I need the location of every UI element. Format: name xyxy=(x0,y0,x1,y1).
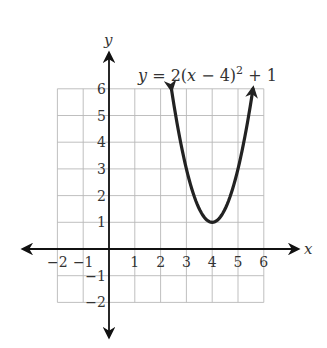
y-tick-label: 3 xyxy=(97,161,106,177)
equation-label: y = 2(x − 4)2 + 1 xyxy=(137,64,277,85)
x-tick-label: 4 xyxy=(208,254,217,270)
y-axis-label: y xyxy=(103,31,113,49)
y-tick-label: 5 xyxy=(97,108,106,124)
y-tick-label: 4 xyxy=(97,134,106,150)
x-tick-label: 3 xyxy=(182,254,191,270)
x-tick-label: 1 xyxy=(130,254,139,270)
y-tick-label: −2 xyxy=(85,294,106,310)
y-tick-label: 6 xyxy=(97,81,106,97)
x-tick-label: −2 xyxy=(47,254,68,270)
y-tick-label: 2 xyxy=(97,188,106,204)
x-tick-label: 6 xyxy=(259,254,268,270)
y-tick-label: 1 xyxy=(97,214,106,230)
y-tick-label: −1 xyxy=(85,268,106,284)
x-axis-label: x xyxy=(304,240,313,258)
x-tick-label: 2 xyxy=(156,254,165,270)
parabola-chart: −2−1123456−2−1123456 x y y = 2(x − 4)2 +… xyxy=(0,0,327,348)
x-tick-label: 5 xyxy=(234,254,243,270)
